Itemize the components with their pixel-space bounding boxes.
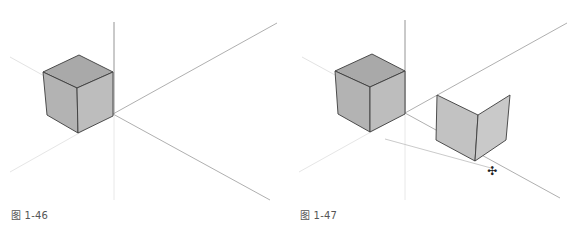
viewport-left	[0, 0, 287, 227]
figure-1-47: ✣ 图 1-47	[287, 0, 577, 227]
axis-green	[405, 23, 567, 113]
axis-red	[113, 114, 270, 200]
cube[interactable]	[335, 54, 405, 132]
panel-left-face	[436, 95, 478, 161]
axis-green	[113, 23, 277, 114]
cube[interactable]	[43, 55, 113, 133]
move-cursor-icon: ✣	[486, 165, 498, 177]
figure-1-46: 图 1-46	[0, 0, 287, 227]
viewport-right	[287, 0, 577, 227]
panel-right-face	[475, 95, 510, 161]
moved-faces[interactable]	[436, 95, 510, 161]
figure-caption: 图 1-46	[11, 207, 48, 222]
figure-caption: 图 1-47	[300, 207, 337, 222]
